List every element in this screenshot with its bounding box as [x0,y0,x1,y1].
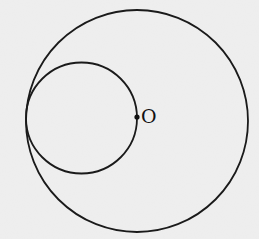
paper-background [0,0,259,239]
diagram-canvas: O [0,0,259,239]
circles-svg [0,0,259,239]
center-point-label: O [141,107,157,126]
center-point-o [134,114,139,119]
